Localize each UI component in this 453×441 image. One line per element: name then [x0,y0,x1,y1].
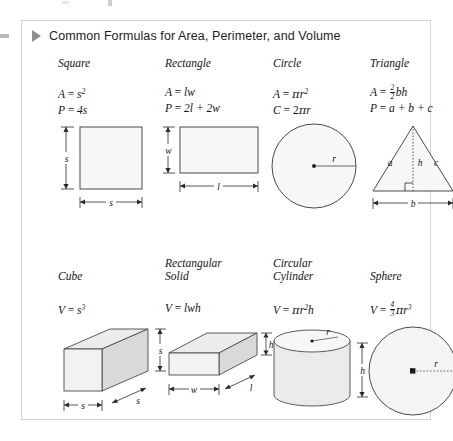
cube-figure: s s s [52,325,172,421]
formula-var-P: P [58,104,65,116]
exponent-3: 3 [408,303,412,312]
formula-var-V: V [58,304,65,316]
shape-name-sphere: Sphere [370,270,412,283]
label-s: s [136,396,140,406]
formula-eq: = [175,102,182,114]
formula-eq: = [283,88,290,100]
pi-symbol: π [292,87,300,101]
page-artifact-edge [0,34,9,38]
formula-square-area: A = s2 [58,84,90,102]
label-h: h [418,158,423,168]
label-r: r [434,359,438,369]
circular-cylinder-figure: r h [266,325,378,423]
shape-name-circle: Circle [273,57,311,70]
page-root: Common Formulas for Area, Perimeter, and… [0,0,453,441]
formula-cube-volume: V = s3 [58,300,85,318]
formula-square-perimeter: P = 4s [58,102,90,118]
cell-cube: Cube V = s3 [58,257,85,318]
fraction-denominator: 2 [390,93,396,101]
exponent-3: 3 [82,303,86,312]
formula-eq: = [284,104,291,116]
shape-name-rectangle: Rectangle [165,57,220,70]
formula-var-C: C [273,104,281,116]
page-title: Common Formulas for Area, Perimeter, and… [49,29,341,43]
formula-eq: = [175,302,182,314]
rectangular-solid-figure: h l w [159,327,279,421]
shape-name-rectangular-solid-line2: Solid [165,270,222,283]
label-l: l [250,383,253,393]
formula-eq: = [380,304,387,316]
formula-eq: = [380,102,387,114]
label-b: b [411,199,416,209]
fraction-four-thirds: 43 [390,301,396,317]
label-l: l [217,182,220,192]
formula-var-V: V [370,304,377,316]
label-w: w [191,385,198,395]
shape-name-triangle: Triangle [370,57,433,70]
formula-square-perimeter-rest: 4s [77,104,87,116]
shape-name-circular-cylinder-line2: Cylinder [273,270,314,283]
formulas-panel: Common Formulas for Area, Perimeter, and… [21,20,431,420]
formula-triangle-perimeter-rest: a + b + c [389,102,433,114]
formula-triangle-area: A = 22bh [370,84,433,100]
formula-sphere-volume: V = 43πr3 [370,300,412,318]
formula-rectangle-area: A = lw [165,84,220,100]
formula-var-A: A [58,88,65,100]
formula-eq: = [68,88,75,100]
shape-name-cube: Cube [58,270,85,283]
formula-var-V: V [273,304,280,316]
label-s: s [81,401,85,411]
triangle-figure: a h c b [365,123,453,215]
formula-eq: = [68,304,75,316]
formula-eq: = [283,304,290,316]
cell-triangle: Triangle A = 22bh P = a + b + c [370,57,433,116]
fraction-one-half: 22 [390,84,396,100]
shape-name-rectangular-solid-line1: Rectangular [165,257,222,270]
formula-eq: = [68,104,75,116]
exponent-2: 2 [304,87,308,96]
formula-rectangular-solid-volume-rest: lwh [184,302,201,314]
sphere-figure: r [365,323,453,423]
exponent-2: 2 [82,87,86,96]
label-a: a [388,158,393,168]
formula-rectangular-solid-volume: V = lwh [165,300,222,316]
rectangle-figure: w l [158,123,276,215]
formula-var-P: P [370,102,377,114]
formula-circle-circumference: C = 2πr [273,102,311,118]
cell-rectangular-solid: Rectangular Solid V = lwh [165,257,222,316]
square-figure: s s [50,123,168,215]
circle-figure: r [269,121,379,215]
shape-name-circular-cylinder-line1: Circular [273,257,314,270]
cell-sphere: Sphere V = 43πr3 [370,257,412,318]
formula-var-V: V [165,302,172,314]
formula-rectangle-perimeter: P = 2l + 2w [165,100,220,116]
formula-var-P: P [165,102,172,114]
panel-header[interactable]: Common Formulas for Area, Perimeter, and… [32,29,341,43]
formula-rectangle-area-rest: lw [184,86,195,98]
cell-rectangle: Rectangle A = lw P = 2l + 2w [165,57,220,116]
page-artifact-left [62,1,69,4]
formula-var-A: A [370,86,377,98]
fraction-denominator: 3 [390,310,396,318]
formula-eq: = [380,86,387,98]
pi-symbol: π [292,303,300,317]
cell-circle: Circle A = πr2 C = 2πr [273,57,311,118]
formula-rectangle-perimeter-rest: 2l + 2w [184,102,220,114]
formula-triangle-perimeter: P = a + b + c [370,100,433,116]
formula-circle-area: A = πr2 [273,84,311,102]
formula-cylinder-volume-tail: h [308,304,314,316]
cell-circular-cylinder: Circular Cylinder V = πr2h [273,257,314,318]
formula-var-A: A [273,88,280,100]
formula-triangle-area-rest: bh [396,86,408,98]
page-artifact-right [108,0,112,6]
cell-square: Square A = s2 P = 4s [58,57,90,118]
shape-name-square: Square [58,57,90,70]
label-r: r [326,327,330,337]
triangle-right-icon[interactable] [32,30,41,42]
formula-cylinder-volume: V = πr2h [273,300,314,318]
label-r: r [332,154,336,164]
label-s: s [109,198,113,208]
label-s: s [65,154,69,164]
formula-var-A: A [165,86,172,98]
formula-eq: = [175,86,182,98]
